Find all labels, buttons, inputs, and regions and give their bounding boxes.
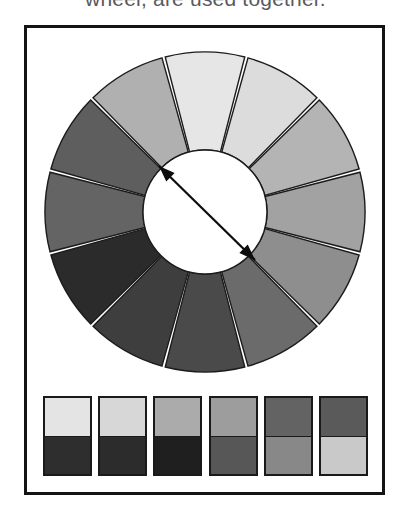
figure-frame [24, 25, 385, 495]
figure-caption: wheel, are used together. [0, 0, 411, 13]
swatch-pair-2[interactable] [98, 396, 147, 476]
swatch-1-top [45, 398, 90, 436]
swatch-3-bottom [155, 436, 200, 474]
swatch-4-top [211, 398, 256, 436]
swatch-6-top [321, 398, 366, 436]
swatch-1-bottom [45, 436, 90, 474]
swatch-6-bottom [321, 436, 366, 474]
swatch-pair-6[interactable] [319, 396, 368, 476]
swatch-pair-5[interactable] [264, 396, 313, 476]
swatch-pair-3[interactable] [153, 396, 202, 476]
swatch-pair-4[interactable] [209, 396, 258, 476]
color-wheel-graphic [41, 48, 370, 377]
swatch-4-bottom [211, 436, 256, 474]
swatch-2-top [100, 398, 145, 436]
swatch-5-bottom [266, 436, 311, 474]
swatch-pair-1[interactable] [43, 396, 92, 476]
swatch-5-top [266, 398, 311, 436]
swatch-3-top [155, 398, 200, 436]
swatch-2-bottom [100, 436, 145, 474]
swatch-row [43, 396, 368, 478]
color-wheel [41, 48, 370, 377]
